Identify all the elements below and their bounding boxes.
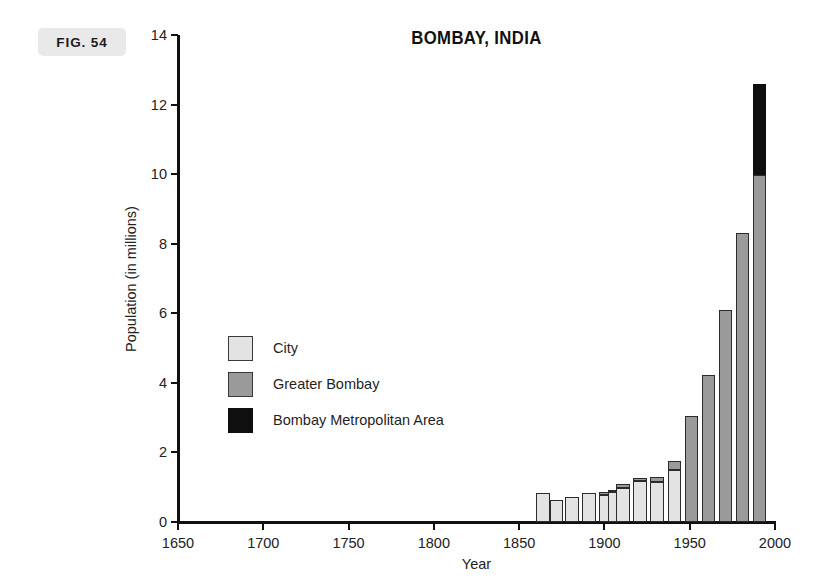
bar-segment bbox=[753, 175, 767, 522]
x-axis-tick-label: 2000 bbox=[759, 535, 791, 551]
legend-swatch bbox=[228, 336, 253, 361]
y-axis-tick-label: 4 bbox=[159, 375, 167, 391]
y-axis-line bbox=[177, 35, 180, 523]
bar-segment bbox=[565, 497, 579, 522]
legend-swatch bbox=[228, 372, 253, 397]
plot-area: 02468101214 1650170017501800185019001950… bbox=[178, 35, 775, 522]
y-axis-tick bbox=[171, 34, 178, 36]
bar-segment bbox=[650, 477, 664, 481]
y-axis-tick bbox=[171, 173, 178, 175]
y-axis-title-text: Population (in millions) bbox=[123, 206, 139, 352]
bar-segment bbox=[536, 493, 550, 522]
bar-segment bbox=[668, 470, 682, 522]
bar-group bbox=[685, 35, 699, 522]
x-axis-tick-label: 1900 bbox=[588, 535, 620, 551]
x-axis-tick-label: 1850 bbox=[503, 535, 535, 551]
legend-label: City bbox=[273, 340, 298, 356]
legend-swatch bbox=[228, 408, 253, 433]
y-axis-tick bbox=[171, 243, 178, 245]
bar-group bbox=[719, 35, 733, 522]
legend-label: Greater Bombay bbox=[273, 376, 379, 392]
bar-segment bbox=[582, 493, 596, 522]
y-axis-tick-label: 12 bbox=[151, 97, 167, 113]
bar-group bbox=[753, 35, 767, 522]
bar-segment bbox=[668, 461, 682, 470]
y-axis-tick bbox=[171, 382, 178, 384]
bar-group bbox=[582, 35, 596, 522]
bar-segment bbox=[550, 500, 564, 522]
y-axis-tick bbox=[171, 451, 178, 453]
y-axis-tick-label: 8 bbox=[159, 236, 167, 252]
chart-legend: CityGreater BombayBombay Metropolitan Ar… bbox=[228, 330, 444, 438]
x-axis-tick-label: 1700 bbox=[247, 535, 279, 551]
x-axis-tick bbox=[348, 522, 350, 530]
y-axis-title: Population (in millions) bbox=[122, 35, 140, 522]
legend-item: Bombay Metropolitan Area bbox=[228, 402, 444, 438]
x-axis-tick bbox=[518, 522, 520, 530]
bar-group bbox=[616, 35, 630, 522]
y-axis-tick-label: 10 bbox=[151, 166, 167, 182]
bar-group bbox=[565, 35, 579, 522]
bar-segment bbox=[633, 478, 647, 481]
x-axis-tick-label: 1800 bbox=[418, 535, 450, 551]
y-axis-tick-label: 14 bbox=[151, 27, 167, 43]
bar-segment bbox=[633, 481, 647, 522]
x-axis-tick bbox=[177, 522, 179, 530]
bar-segment bbox=[616, 488, 630, 522]
bar-segment bbox=[719, 310, 733, 522]
y-axis-tick bbox=[171, 312, 178, 314]
bar-segment bbox=[685, 416, 699, 522]
y-axis-tick-label: 0 bbox=[159, 514, 167, 530]
y-axis-tick bbox=[171, 104, 178, 106]
x-axis-tick bbox=[433, 522, 435, 530]
bar-segment bbox=[650, 482, 664, 522]
legend-item: Greater Bombay bbox=[228, 366, 444, 402]
bar-group bbox=[550, 35, 564, 522]
bar-segment bbox=[616, 484, 630, 488]
x-axis-tick-label: 1650 bbox=[162, 535, 194, 551]
bar-group bbox=[668, 35, 682, 522]
y-axis-tick-label: 6 bbox=[159, 305, 167, 321]
figure-number-label: FIG. 54 bbox=[38, 28, 126, 56]
x-axis-tick bbox=[774, 522, 776, 530]
x-axis-title: Year bbox=[178, 556, 775, 572]
x-axis-tick bbox=[262, 522, 264, 530]
y-axis-tick-label: 2 bbox=[159, 444, 167, 460]
x-axis-tick bbox=[689, 522, 691, 530]
bar-group bbox=[633, 35, 647, 522]
x-axis-tick-label: 1950 bbox=[674, 535, 706, 551]
legend-item: City bbox=[228, 330, 444, 366]
bar-group bbox=[536, 35, 550, 522]
figure-root: FIG. 54 BOMBAY, INDIA Population (in mil… bbox=[0, 0, 826, 583]
bar-group bbox=[650, 35, 664, 522]
bar-segment bbox=[753, 84, 767, 175]
figure-number-text: FIG. 54 bbox=[56, 35, 107, 50]
x-axis-tick-label: 1750 bbox=[332, 535, 364, 551]
bar-segment bbox=[702, 375, 716, 522]
bar-group bbox=[736, 35, 750, 522]
bar-segment bbox=[736, 233, 750, 522]
legend-label: Bombay Metropolitan Area bbox=[273, 412, 444, 428]
bar-group bbox=[702, 35, 716, 522]
x-axis-tick bbox=[603, 522, 605, 530]
